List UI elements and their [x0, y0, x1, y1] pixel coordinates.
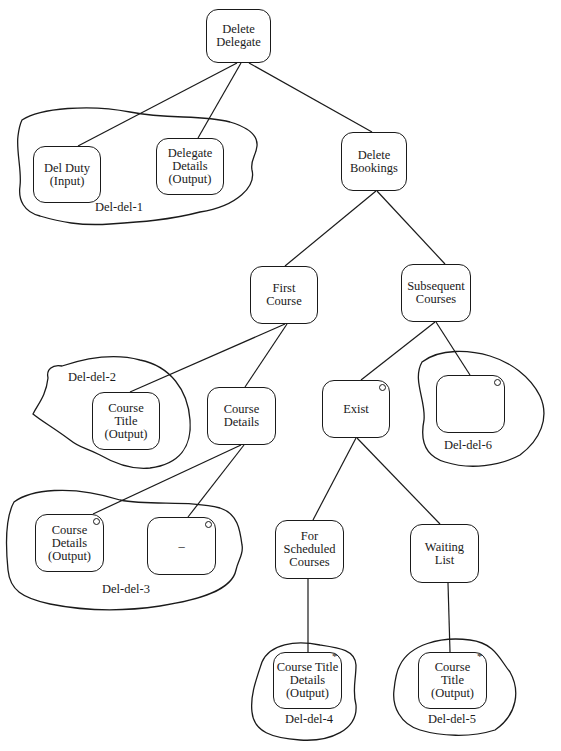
region-label-del-del-5: Del-del-5 — [428, 712, 476, 727]
connector-line — [130, 324, 285, 392]
node-label: Course Title (Output) — [431, 661, 474, 700]
node-label: Course Details — [224, 403, 259, 429]
node-label: Waiting List — [425, 541, 464, 567]
node-label: Delegate Details (Output) — [168, 147, 212, 186]
node-label: Delete Delegate — [216, 23, 260, 49]
node-label: Subsequent Courses — [407, 280, 465, 306]
node-for-scheduled-courses: For Scheduled Courses — [275, 520, 344, 579]
node-delete-delegate: Delete Delegate — [206, 9, 271, 63]
connector-line — [436, 322, 470, 375]
iteration-asterisk-icon: * — [332, 650, 338, 662]
node-label: For Scheduled Courses — [283, 530, 335, 569]
connector-line — [78, 63, 237, 146]
region-label-del-del-1: Del-del-1 — [95, 200, 143, 215]
node-del-duty: Del Duty (Input) — [33, 146, 101, 203]
connector-line — [188, 445, 244, 517]
connector-line — [377, 191, 445, 264]
node-label: Exist — [343, 403, 369, 416]
node-delegate-details: Delegate Details (Output) — [156, 138, 224, 195]
connector-line — [313, 438, 356, 520]
node-course-title-2: Course Title (Output) — [92, 392, 160, 450]
node-first-course: First Course — [250, 266, 318, 324]
connector-line — [448, 583, 450, 652]
node-course-details: Course Details — [207, 387, 276, 445]
node-subsequent-courses: Subsequent Courses — [401, 264, 471, 322]
connector-line — [285, 191, 376, 266]
connector-line — [249, 63, 372, 132]
connector-line — [245, 324, 287, 387]
node-label: Del Duty (Input) — [44, 162, 90, 188]
selection-circle-icon — [93, 518, 100, 525]
node-label: Course Title (Output) — [104, 402, 147, 441]
region-label-del-del-3: Del-del-3 — [102, 582, 150, 597]
node-label: – — [178, 540, 184, 553]
structure-chart-diagram: Delete DelegateDel Duty (Input)Delegate … — [0, 0, 561, 751]
node-waiting-list: Waiting List — [410, 524, 479, 583]
selection-circle-icon — [494, 379, 501, 386]
node-label: Delete Bookings — [350, 149, 398, 175]
node-label: Course Details (Output) — [48, 524, 91, 563]
node-delete-bookings: Delete Bookings — [341, 132, 407, 191]
selection-circle-icon — [379, 384, 386, 391]
node-label: Course Title Details (Output) — [277, 661, 338, 700]
node-label: First Course — [266, 282, 301, 308]
region-label-del-del-6: Del-del-6 — [444, 438, 492, 453]
region-label-del-del-2: Del-del-2 — [68, 370, 116, 385]
iteration-asterisk-icon: * — [477, 650, 483, 662]
connector-line — [198, 63, 241, 138]
connector-line — [361, 322, 435, 380]
region-label-del-del-4: Del-del-4 — [285, 712, 333, 727]
selection-circle-icon — [205, 521, 212, 528]
